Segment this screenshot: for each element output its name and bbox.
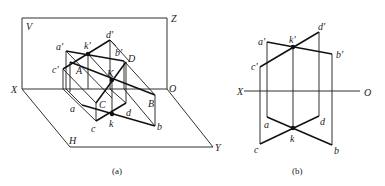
label-D: D	[127, 53, 136, 64]
caption-a: (a)	[112, 166, 122, 176]
label-c: c	[91, 123, 96, 134]
label-A: A	[75, 65, 83, 76]
label-X: X	[10, 84, 18, 95]
label-b-prime: b'	[115, 47, 123, 58]
point-k	[110, 112, 114, 116]
label-a-prime: a'	[56, 41, 64, 52]
label-H: H	[68, 135, 77, 146]
point-k-prime	[86, 52, 90, 56]
label-d-prime: d'	[106, 29, 114, 40]
label-c-prime: c'	[52, 64, 59, 75]
projector	[63, 89, 96, 121]
label-c-prime: c'	[251, 61, 258, 72]
label-b-prime: b'	[336, 49, 344, 60]
label-k: k	[290, 133, 295, 144]
label-X: X	[236, 86, 244, 97]
v-plane	[22, 18, 167, 89]
label-c: c	[254, 144, 259, 155]
label-a-prime: a'	[258, 36, 266, 47]
label-Y: Y	[215, 142, 222, 153]
label-k: k	[109, 118, 114, 129]
label-V: V	[26, 21, 34, 32]
figure-b: X O a' k' d' b' c' a k d c b (b)	[236, 21, 371, 176]
label-k-prime: k'	[289, 34, 296, 45]
h-plane	[22, 89, 213, 147]
label-b: b	[334, 145, 339, 156]
point-k	[291, 126, 295, 130]
projector	[124, 61, 155, 95]
label-d-prime: d'	[318, 21, 326, 32]
label-O: O	[169, 83, 176, 94]
caption-b: (b)	[292, 166, 303, 176]
label-O: O	[364, 87, 371, 98]
label-a: a	[70, 103, 75, 114]
projection-diagram: V Z X O H Y a' k' d' b' c' A D K C B a c…	[0, 0, 385, 186]
label-d: d	[126, 107, 132, 118]
figure-a: V Z X O H Y a' k' d' b' c' A D K C B a c…	[10, 13, 222, 176]
label-B: B	[148, 98, 154, 109]
label-d: d	[320, 116, 326, 127]
label-Z: Z	[171, 13, 177, 24]
label-C: C	[99, 99, 106, 110]
point-k-prime	[291, 45, 295, 49]
label-K: K	[106, 68, 115, 79]
label-b: b	[157, 121, 162, 132]
label-a: a	[264, 119, 269, 130]
label-k-prime: k'	[84, 40, 91, 51]
